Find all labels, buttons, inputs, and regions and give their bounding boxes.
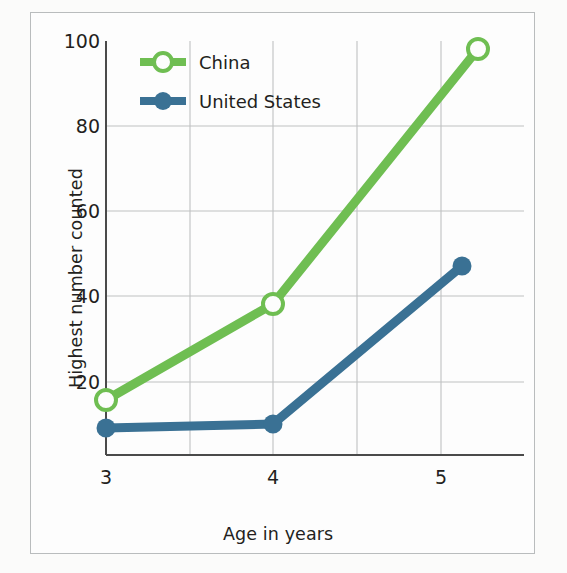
y-axis-title: Highest number counted	[66, 168, 86, 388]
x-tick-label-3: 3	[86, 466, 126, 488]
x-tick-label-5: 5	[421, 466, 461, 488]
y-tick-label-80: 80	[40, 115, 100, 137]
legend-label-china: China	[199, 52, 250, 73]
x-axis-title: Age in years	[223, 524, 333, 544]
x-tick-label-4: 4	[253, 466, 293, 488]
legend-label-united-states: United States	[199, 91, 321, 112]
y-tick-label-100: 100	[40, 30, 100, 52]
